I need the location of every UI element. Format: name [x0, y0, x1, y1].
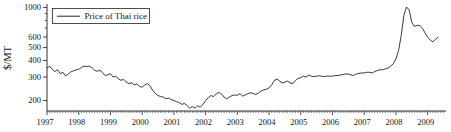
- price-line-chart: 2003004005006001000199719981999200020012…: [0, 0, 451, 132]
- x-tick-label: 2002: [195, 117, 212, 127]
- y-tick-label: 1000: [24, 2, 41, 12]
- x-tick-label: 1997: [37, 117, 54, 127]
- x-tick-label: 1998: [68, 117, 85, 127]
- x-tick-label: 2001: [163, 117, 180, 127]
- x-tick-label: 2003: [227, 117, 244, 127]
- y-tick-label: 500: [28, 42, 41, 52]
- x-tick-label: 2005: [290, 117, 307, 127]
- x-tick-label: 1999: [100, 117, 117, 127]
- thai-rice-price-figure: 2003004005006001000199719981999200020012…: [0, 0, 451, 132]
- x-tick-label: 2004: [259, 117, 277, 127]
- y-tick-label: 200: [28, 95, 41, 105]
- x-tick-label: 2006: [322, 117, 339, 127]
- x-tick-label: 2009: [417, 117, 434, 127]
- y-tick-label: 400: [28, 55, 41, 65]
- y-tick-label: 600: [28, 32, 41, 42]
- y-tick-label: 300: [28, 72, 41, 82]
- x-tick-label: 2000: [132, 117, 149, 127]
- y-axis-title: $/MT: [2, 45, 13, 70]
- x-tick-label: 2008: [385, 117, 402, 127]
- legend-label: Price of Thai rice: [85, 11, 148, 21]
- x-tick-label: 2007: [354, 117, 371, 127]
